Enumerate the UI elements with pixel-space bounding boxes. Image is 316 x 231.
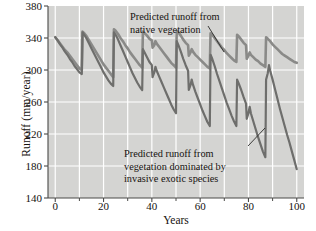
x-axis-label: Years [48,214,304,226]
x-tick-60: 60 [182,200,218,212]
native-vegetation-annotation: Predicted runoff fromnative vegetation [130,11,220,36]
y-tick-220: 220 [8,128,42,140]
y-tick-380: 380 [8,0,42,12]
runoff-chart-figure: Runoff (mm/year) Years 14018022026030034… [0,0,316,231]
y-tick-260: 260 [8,96,42,108]
invasive-annotation-line-2: vegetation dominated by [124,161,226,174]
invasive-annotation-line-3: invasive exotic species [124,173,226,186]
native-annotation-line-2: native vegetation [130,24,220,37]
invasive-species-annotation: Predicted runoff fromvegetation dominate… [124,148,226,186]
y-tick-340: 340 [8,32,42,44]
x-tick-100: 100 [279,200,315,212]
y-tick-300: 300 [8,64,42,76]
x-tick-40: 40 [134,200,170,212]
native-annotation-line-1: Predicted runoff from [130,11,220,24]
x-tick-80: 80 [230,200,266,212]
x-tick-20: 20 [86,200,122,212]
invasive-annotation-line-1: Predicted runoff from [124,148,226,161]
y-tick-180: 180 [8,160,42,172]
x-tick-0: 0 [37,200,73,212]
